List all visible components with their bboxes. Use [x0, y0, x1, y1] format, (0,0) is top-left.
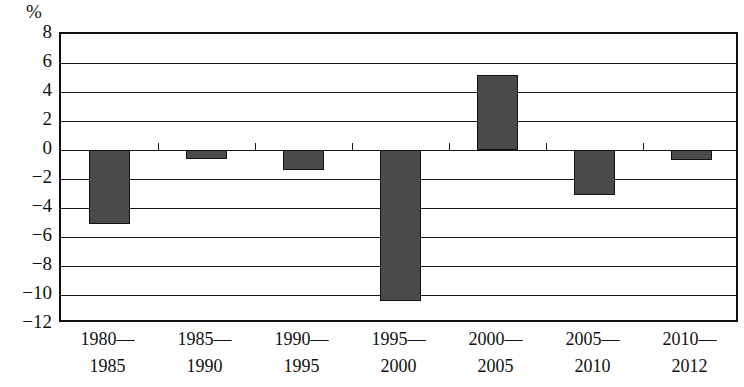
x-tick-label: 1990—1995	[253, 326, 350, 380]
x-tick-label: 2000—2005	[447, 326, 544, 380]
y-tick-label: −8	[32, 254, 52, 273]
x-label-line-1: 1985—	[156, 326, 253, 353]
x-label-line-1: 1990—	[253, 326, 350, 353]
bar	[283, 150, 324, 170]
zero-axis-tick	[643, 143, 644, 150]
x-label-line-2: 2012	[641, 353, 738, 380]
x-label-line-2: 1995	[253, 353, 350, 380]
bar	[186, 150, 227, 159]
y-tick-label: −4	[32, 196, 52, 215]
plot-inner	[61, 34, 736, 320]
zero-axis-tick	[546, 143, 547, 150]
bar	[574, 150, 615, 195]
y-axis-tick-label-layer: 86420−2−4−6−8−10−12	[0, 32, 52, 322]
x-label-line-2: 1990	[156, 353, 253, 380]
plot-area-frame	[59, 32, 738, 322]
y-tick-label: 6	[43, 51, 53, 70]
x-label-line-2: 2010	[544, 353, 641, 380]
x-label-line-2: 1985	[59, 353, 156, 380]
zero-axis-tick	[158, 143, 159, 150]
x-label-line-1: 2005—	[544, 326, 641, 353]
y-tick-label: −6	[32, 225, 52, 244]
y-tick-label: −10	[22, 283, 52, 302]
x-tick-label: 1985—1990	[156, 326, 253, 380]
x-tick-label: 2010—2012	[641, 326, 738, 380]
x-label-line-2: 2000	[350, 353, 447, 380]
y-tick-label: −2	[32, 167, 52, 186]
bar	[477, 75, 518, 150]
x-tick-label: 2005—2010	[544, 326, 641, 380]
bar	[671, 150, 712, 160]
zero-axis-tick	[255, 143, 256, 150]
zero-axis-tick	[449, 143, 450, 150]
y-tick-label: 2	[43, 109, 53, 128]
zero-axis-tick	[352, 143, 353, 150]
bar	[89, 150, 130, 224]
y-tick-label: 4	[43, 80, 53, 99]
x-label-line-1: 2010—	[641, 326, 738, 353]
x-label-line-1: 1980—	[59, 326, 156, 353]
y-tick-label: −12	[22, 312, 52, 331]
gridline-2	[61, 121, 736, 122]
gridline-6	[61, 63, 736, 64]
x-label-line-1: 2000—	[447, 326, 544, 353]
x-tick-label: 1995—2000	[350, 326, 447, 380]
x-label-line-2: 2005	[447, 353, 544, 380]
y-axis-unit-caption: %	[26, 2, 42, 21]
y-tick-label: 8	[43, 22, 53, 41]
gridline-4	[61, 92, 736, 93]
bar-chart-figure: % 86420−2−4−6−8−10−12 1980—19851985—1990…	[0, 0, 744, 387]
x-label-line-1: 1995—	[350, 326, 447, 353]
x-tick-label: 1980—1985	[59, 326, 156, 380]
x-axis-category-label-layer: 1980—19851985—19901990—19951995—20002000…	[59, 326, 738, 384]
y-tick-label: 0	[43, 138, 53, 157]
bar	[380, 150, 421, 301]
